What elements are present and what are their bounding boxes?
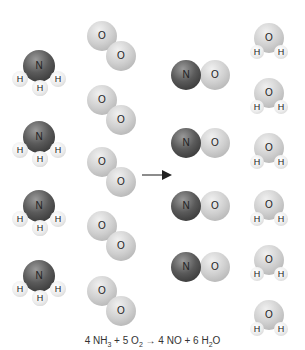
hydrogen-atom-label: H <box>17 285 24 294</box>
oxygen-atom: O <box>200 252 230 282</box>
hydrogen-atom: H <box>12 71 28 87</box>
hydrogen-atom: H <box>32 80 48 96</box>
oxygen-atom-label: O <box>98 31 106 41</box>
oxygen-atom-label: O <box>265 200 273 210</box>
eq-arrow: → <box>143 335 159 346</box>
oxygen-atom-label: O <box>117 51 125 61</box>
nitrogen-atom-label: N <box>182 262 189 272</box>
oxygen-atom-label: O <box>117 306 125 316</box>
hydrogen-atom-label: H <box>37 224 44 233</box>
hydrogen-atom-label: H <box>278 270 285 279</box>
hydrogen-atom: H <box>12 142 28 158</box>
reaction-arrow-icon <box>140 168 174 182</box>
hydrogen-atom: H <box>250 45 264 59</box>
hydrogen-atom-label: H <box>278 215 285 224</box>
oxygen-atom-label: O <box>265 310 273 320</box>
oxygen-atom: O <box>106 296 136 326</box>
hydrogen-atom: H <box>250 267 264 281</box>
hydrogen-atom-label: H <box>55 285 62 294</box>
oxygen-atom-label: O <box>98 286 106 296</box>
nitrogen-atom-label: N <box>182 70 189 80</box>
oxygen-atom: O <box>106 105 136 135</box>
hydrogen-atom: H <box>32 290 48 306</box>
nitrogen-atom: N <box>171 252 201 282</box>
hydrogen-atom: H <box>12 281 28 297</box>
hydrogen-atom-label: H <box>17 146 24 155</box>
eq-o2: 5 O <box>123 335 139 346</box>
oxygen-atom-label: O <box>211 201 219 211</box>
hydrogen-atom-label: H <box>55 215 62 224</box>
nitrogen-atom-label: N <box>35 132 42 142</box>
hydrogen-atom: H <box>50 142 66 158</box>
oxygen-atom-label: O <box>265 143 273 153</box>
hydrogen-atom: H <box>250 100 264 114</box>
hydrogen-atom-label: H <box>254 270 261 279</box>
hydrogen-atom: H <box>250 155 264 169</box>
hydrogen-atom-label: H <box>17 75 24 84</box>
oxygen-atom-label: O <box>265 88 273 98</box>
eq-h2o: 6 H <box>193 335 209 346</box>
oxygen-atom: O <box>106 231 136 261</box>
hydrogen-atom-label: H <box>55 75 62 84</box>
nitrogen-atom-label: N <box>35 61 42 71</box>
eq-nh3: 4 NH <box>85 335 108 346</box>
hydrogen-atom: H <box>274 322 288 336</box>
nitrogen-atom: N <box>171 60 201 90</box>
oxygen-atom: O <box>200 191 230 221</box>
hydrogen-atom-label: H <box>55 146 62 155</box>
hydrogen-atom-label: H <box>254 48 261 57</box>
chemical-equation: 4 NH3 + 5 O2 → 4 NO + 6 H2O <box>0 335 305 348</box>
hydrogen-atom-label: H <box>17 215 24 224</box>
eq-plus: + <box>182 335 193 346</box>
oxygen-atom-label: O <box>117 241 125 251</box>
oxygen-atom-label: O <box>98 221 106 231</box>
hydrogen-atom: H <box>274 267 288 281</box>
hydrogen-atom-label: H <box>254 215 261 224</box>
hydrogen-atom: H <box>274 212 288 226</box>
hydrogen-atom-label: H <box>37 294 44 303</box>
hydrogen-atom: H <box>274 155 288 169</box>
hydrogen-atom: H <box>250 322 264 336</box>
oxygen-atom-label: O <box>265 255 273 265</box>
hydrogen-atom: H <box>274 100 288 114</box>
oxygen-atom-label: O <box>117 177 125 187</box>
oxygen-atom-label: O <box>98 157 106 167</box>
hydrogen-atom: H <box>50 211 66 227</box>
oxygen-atom-label: O <box>211 262 219 272</box>
hydrogen-atom: H <box>50 71 66 87</box>
hydrogen-atom-label: H <box>37 155 44 164</box>
oxygen-atom: O <box>200 128 230 158</box>
oxygen-atom: O <box>106 167 136 197</box>
oxygen-atom-label: O <box>211 70 219 80</box>
hydrogen-atom-label: H <box>254 103 261 112</box>
hydrogen-atom: H <box>32 220 48 236</box>
oxygen-atom: O <box>106 41 136 71</box>
hydrogen-atom-label: H <box>278 158 285 167</box>
nitrogen-atom-label: N <box>182 138 189 148</box>
nitrogen-atom-label: N <box>35 271 42 281</box>
nitrogen-atom: N <box>171 191 201 221</box>
eq-h2o-tail: O <box>213 335 221 346</box>
oxygen-atom-label: O <box>211 138 219 148</box>
hydrogen-atom-label: H <box>278 48 285 57</box>
hydrogen-atom-label: H <box>254 158 261 167</box>
hydrogen-atom-label: H <box>278 325 285 334</box>
eq-no: 4 NO <box>158 335 181 346</box>
hydrogen-atom: H <box>32 151 48 167</box>
hydrogen-atom: H <box>250 212 264 226</box>
hydrogen-atom-label: H <box>278 103 285 112</box>
oxygen-atom-label: O <box>117 115 125 125</box>
hydrogen-atom: H <box>12 211 28 227</box>
hydrogen-atom: H <box>274 45 288 59</box>
hydrogen-atom-label: H <box>254 325 261 334</box>
oxygen-atom-label: O <box>265 33 273 43</box>
nitrogen-atom-label: N <box>182 201 189 211</box>
oxygen-atom: O <box>200 60 230 90</box>
oxygen-atom-label: O <box>98 95 106 105</box>
hydrogen-atom: H <box>50 281 66 297</box>
eq-plus: + <box>111 335 122 346</box>
nitrogen-atom: N <box>171 128 201 158</box>
nitrogen-atom-label: N <box>35 201 42 211</box>
hydrogen-atom-label: H <box>37 84 44 93</box>
